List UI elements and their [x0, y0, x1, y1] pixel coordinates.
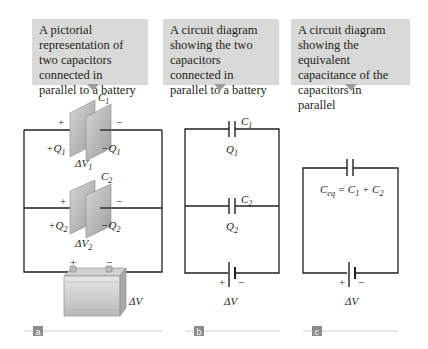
- label-battery-dv-a: ΔV: [128, 295, 143, 307]
- panel-b-badge-text: b: [197, 327, 202, 337]
- panel-a: C1 + − +Q1 −Q1 ΔV1 C2 + − +Q2 −Q2 ΔV2 + …: [24, 91, 162, 337]
- label-c2: C2: [101, 170, 112, 185]
- label-c1: C1: [98, 91, 109, 106]
- panel-c-badge-text: c: [315, 327, 320, 337]
- battery-symbol-b: [229, 262, 235, 287]
- battery-plus-c: +: [339, 276, 345, 288]
- capacitor-c1-symbol: [229, 121, 235, 137]
- capacitor-ceq-symbol: [347, 159, 353, 176]
- label-plus-q2: +Q2: [48, 219, 67, 234]
- label-dv2: ΔV2: [74, 237, 92, 252]
- label-battery-dv-b: ΔV: [223, 295, 238, 307]
- battery-symbol-c: [349, 262, 355, 287]
- plus-sign-c2: +: [60, 195, 66, 207]
- diagram-canvas: C1 + − +Q1 −Q1 ΔV1 C2 + − +Q2 −Q2 ΔV2 + …: [0, 0, 428, 349]
- minus-sign-c1: −: [116, 116, 122, 128]
- minus-sign-c2: −: [116, 195, 122, 207]
- label-q2-b: Q2: [226, 220, 238, 235]
- label-battery-dv-c: ΔV: [344, 295, 359, 307]
- label-minus-q1: −Q1: [101, 142, 120, 157]
- label-q1-b: Q1: [226, 143, 238, 158]
- panel-b: C1 Q1 C2 Q2 + − ΔV b: [185, 115, 280, 337]
- battery-minus-c: −: [358, 276, 364, 288]
- panel-c: Ceq = C1 + C2 + − ΔV c: [303, 159, 398, 337]
- battery-pictorial: + −: [64, 256, 126, 316]
- plus-sign-c1: +: [58, 116, 64, 128]
- panel-a-badge-text: a: [36, 327, 41, 337]
- battery-minus-b: −: [238, 276, 244, 288]
- label-plus-q1: +Q1: [46, 142, 65, 157]
- battery-plus-b: +: [219, 276, 225, 288]
- label-minus-q2: −Q2: [101, 219, 120, 234]
- capacitor-c2-symbol: [229, 198, 235, 214]
- label-ceq-equation: Ceq = C1 + C2: [320, 183, 383, 198]
- label-c1-b: C1: [241, 115, 252, 130]
